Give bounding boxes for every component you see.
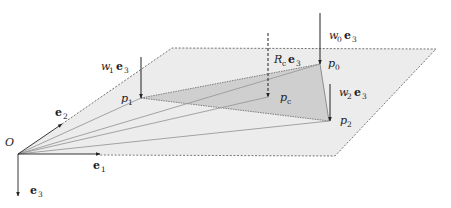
svg-text:3: 3 xyxy=(124,66,129,75)
e3-label: e 3 xyxy=(30,184,43,199)
svg-text:2: 2 xyxy=(347,92,352,101)
svg-text:c: c xyxy=(282,59,286,68)
svg-text:3: 3 xyxy=(296,59,301,68)
svg-text:0: 0 xyxy=(337,35,342,44)
svg-text:1: 1 xyxy=(128,98,133,107)
svg-text:p: p xyxy=(328,57,335,70)
svg-text:c: c xyxy=(287,97,291,106)
svg-text:R: R xyxy=(273,53,282,66)
svg-text:2: 2 xyxy=(63,112,68,121)
svg-text:2: 2 xyxy=(347,120,352,129)
svg-text:1: 1 xyxy=(101,165,106,174)
svg-text:e: e xyxy=(93,159,100,172)
svg-text:e: e xyxy=(55,106,62,119)
svg-text:1: 1 xyxy=(109,66,114,75)
svg-text:e: e xyxy=(30,184,37,197)
svg-text:3: 3 xyxy=(38,190,43,199)
origin-label: O xyxy=(5,136,14,149)
svg-text:3: 3 xyxy=(352,35,357,44)
svg-text:e: e xyxy=(354,86,361,99)
svg-text:p: p xyxy=(121,92,128,105)
triangle-forces-diagram: O e 1 e 2 e 3 p 0 p 1 p 2 p c w 0 e 3 w … xyxy=(0,0,451,208)
svg-text:e: e xyxy=(116,60,123,73)
svg-text:3: 3 xyxy=(362,92,367,101)
force-label-p0: w 0 e 3 xyxy=(329,29,357,44)
svg-text:e: e xyxy=(344,29,351,42)
e1-label: e 1 xyxy=(93,159,106,174)
force-label-p1: w 1 e 3 xyxy=(101,60,129,75)
e2-label: e 2 xyxy=(55,106,68,121)
svg-text:p: p xyxy=(280,91,287,104)
svg-text:0: 0 xyxy=(335,63,340,72)
svg-text:e: e xyxy=(288,53,295,66)
svg-text:p: p xyxy=(340,114,347,127)
